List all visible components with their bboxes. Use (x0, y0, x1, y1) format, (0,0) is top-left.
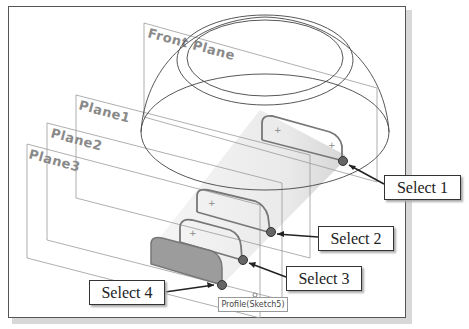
select-point-3[interactable] (239, 256, 248, 265)
callout-select-4: Select 4 (89, 280, 165, 305)
plane1-label: Plane1 (77, 97, 132, 125)
center-mark: + (189, 228, 197, 238)
plane2-label: Plane2 (49, 125, 104, 153)
profile-tooltip: Profile(Sketch5) (218, 297, 288, 312)
model-view[interactable]: Front Plane Plane1 Plane2 Plane3 + + + + (0, 0, 469, 329)
center-mark: + (208, 198, 216, 208)
select-point-1[interactable] (339, 157, 348, 166)
center-mark: + (274, 125, 282, 135)
plane3-label: Plane3 (27, 146, 82, 174)
center-mark: + (328, 140, 336, 150)
callout-select-3: Select 3 (286, 266, 362, 291)
select-point-4[interactable] (218, 281, 227, 290)
select-point-2[interactable] (267, 228, 276, 237)
callout-select-2: Select 2 (318, 226, 394, 251)
callout-select-1: Select 1 (384, 175, 461, 200)
